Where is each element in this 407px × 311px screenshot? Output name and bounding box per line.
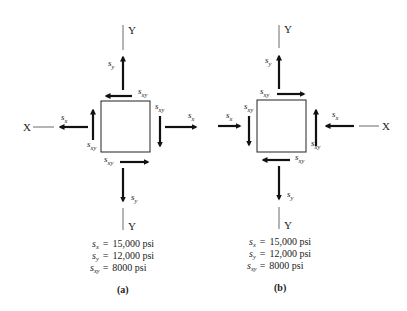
stress-values-a: sx=15,000 psi sy=12,000 psi sxy=8000 psi	[90, 238, 154, 274]
sy-top-label-a: sy	[108, 58, 115, 70]
sx-right-label-a: sx	[188, 110, 195, 122]
value-row-sx-b: sx=15,000 psi	[249, 236, 311, 248]
sxy-top-label-b: sxy	[260, 86, 269, 98]
x-axis-label-b: X	[382, 120, 390, 132]
value-row-sy-b: sy=12,000 psi	[249, 248, 311, 260]
sx-left-label-a: sx	[61, 112, 68, 124]
sy-bottom-label-b: sy	[287, 189, 294, 201]
y-axis-bottom-label-b: Y	[284, 219, 292, 231]
sx-right-label-b: sx	[332, 109, 339, 121]
sxy-left-label-a: sxy	[87, 139, 96, 151]
figure-a: Y sy sxy sxy sxy sxy sx X sx sy Y	[23, 24, 196, 296]
sx-left-label-b: sx	[226, 110, 233, 122]
sxy-left-label-b: sxy	[244, 101, 253, 113]
stress-element-square-a	[101, 101, 150, 152]
sxy-top-label-a: sxy	[138, 86, 147, 98]
sy-bottom-label-a: sy	[131, 192, 138, 204]
sxy-bottom-label-b: sxy	[295, 152, 304, 164]
value-row-sy-a: sy=12,000 psi	[92, 250, 154, 262]
x-axis-label-a: X	[23, 121, 31, 133]
stress-element-square-b	[257, 100, 306, 152]
caption-a: (a)	[117, 284, 129, 296]
sxy-right-label-a: sxy	[155, 101, 164, 113]
y-axis-top-label-a: Y	[128, 24, 136, 36]
y-axis-top-label-b: Y	[284, 23, 292, 35]
figure-b: Y sy sxy sxy sxy sxy sx sx X sy Y	[218, 23, 390, 294]
stress-element-diagram: Y sy sxy sxy sxy sxy sx X sx sy Y	[0, 0, 407, 311]
caption-b: (b)	[274, 282, 286, 294]
y-axis-bottom-label-a: Y	[128, 220, 136, 232]
value-row-sxy-b: sxy=8000 psi	[247, 260, 304, 272]
stress-values-b: sx=15,000 psi sy=12,000 psi sxy=8000 psi	[247, 236, 311, 272]
sxy-bottom-label-a: sxy	[104, 154, 113, 166]
sy-top-label-b: sy	[265, 55, 272, 67]
value-row-sxy-a: sxy=8000 psi	[90, 262, 147, 274]
value-row-sx-a: sx=15,000 psi	[92, 238, 154, 250]
